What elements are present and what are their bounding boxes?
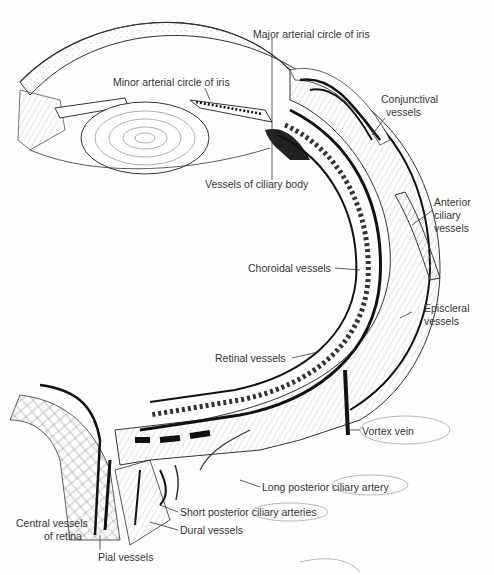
label-central-1: Central vessels (16, 517, 88, 529)
label-episcleral-1: Episcleral (424, 302, 470, 314)
label-major-arterial-circle: Major arterial circle of iris (253, 28, 370, 40)
label-central-2: of retina (44, 530, 82, 542)
label-pial: Pial vessels (98, 551, 153, 563)
label-conjunctival-2: vessels (386, 106, 421, 118)
label-minor-arterial-circle: Minor arterial circle of iris (113, 76, 230, 88)
label-short-posterior: Short posterior ciliary arteries (180, 506, 317, 518)
eye-illustration (0, 0, 494, 575)
label-retinal: Retinal vessels (215, 352, 286, 364)
label-conjunctival-1: Conjunctival (381, 93, 438, 105)
label-long-posterior: Long posterior ciliary artery (262, 481, 389, 493)
eye-vascular-diagram: Major arterial circle of iris Minor arte… (0, 0, 494, 575)
label-anterior-ciliary-2: ciliary (434, 209, 461, 221)
label-anterior-ciliary-3: vessels (434, 222, 469, 234)
label-anterior-ciliary-1: Anterior (434, 196, 471, 208)
label-dural: Dural vessels (180, 524, 243, 536)
label-vessels-ciliary-body: Vessels of ciliary body (205, 178, 308, 190)
label-episcleral-2: vessels (424, 315, 459, 327)
label-vortex-vein: Vortex vein (362, 425, 414, 437)
label-choroidal: Choroidal vessels (248, 262, 331, 274)
